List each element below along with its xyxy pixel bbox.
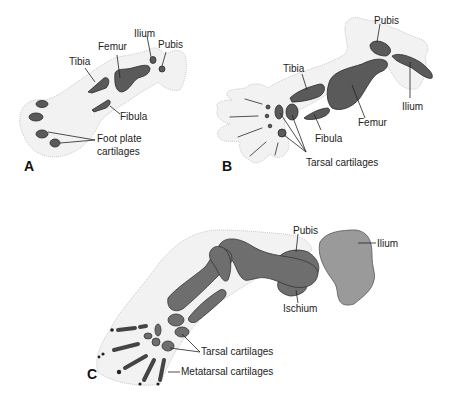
label-tibia: Tibia xyxy=(69,56,91,67)
panel-a: Tibia Femur Ilium Pubis Fibula Foot plat… xyxy=(20,28,187,174)
panel-c-phalanx xyxy=(101,352,104,355)
label-pubis: Pubis xyxy=(293,225,318,236)
diagram-canvas: Tibia Femur Ilium Pubis Fibula Foot plat… xyxy=(0,0,461,399)
panel-b-tarsal xyxy=(268,124,272,128)
panel-c-tarsal xyxy=(168,314,184,326)
panel-letter-b: B xyxy=(222,158,232,174)
panel-c-phalanx xyxy=(156,382,159,385)
label-tibia: Tibia xyxy=(283,63,305,74)
panel-a-foot-cartilage xyxy=(50,139,60,147)
panel-a-pubis xyxy=(159,66,165,72)
panel-a-foot-cartilage xyxy=(36,101,48,108)
panel-c-tarsal xyxy=(175,327,189,337)
panel-a-foot-cartilage xyxy=(36,130,48,138)
label-femur: Femur xyxy=(358,117,388,128)
leader-line xyxy=(182,334,200,352)
panel-c-metatarsal xyxy=(140,326,146,327)
panel-b-tarsal xyxy=(286,104,298,120)
panel-c-tarsal xyxy=(155,324,161,336)
panel-b-fibula xyxy=(304,108,330,120)
panel-c-ilium xyxy=(319,230,374,305)
label-tarsal-cartilages: Tarsal cartilages xyxy=(201,346,273,357)
panel-c-phalanx xyxy=(117,370,121,374)
panel-c: Pubis Ilium Ischium Tarsal cartilages Me… xyxy=(87,225,398,386)
label-fibula: Fibula xyxy=(120,111,148,122)
label-tarsal-cartilages: Tarsal cartilages xyxy=(306,157,378,168)
panel-c-metatarsal xyxy=(118,328,135,330)
panel-c-tarsal xyxy=(144,333,152,339)
panel-b-tarsal xyxy=(266,105,270,109)
label-ilium: Ilium xyxy=(402,101,423,112)
label-fibula: Fibula xyxy=(315,133,343,144)
label-pubis: Pubis xyxy=(158,39,183,50)
panel-c-phalanx xyxy=(98,356,101,359)
label-ilium: Ilium xyxy=(134,28,155,39)
panel-letter-c: C xyxy=(87,366,97,382)
panel-b-tarsal xyxy=(275,105,283,119)
panel-a-foot-cartilage xyxy=(29,113,43,121)
panel-c-phalanx xyxy=(110,328,114,332)
label-foot-plate-cartilages: cartilages xyxy=(97,146,140,157)
panel-b-tarsal xyxy=(265,114,269,118)
label-metatarsal-cartilages: Metatarsal cartilages xyxy=(181,366,273,377)
label-femur: Femur xyxy=(98,41,128,52)
label-ischium: Ischium xyxy=(283,303,317,314)
label-foot-plate: Foot plate xyxy=(97,133,142,144)
panel-c-phalanx xyxy=(138,382,141,385)
label-pubis: Pubis xyxy=(374,15,399,26)
panel-b: Pubis Tibia Ilium Femur Fibula Tarsal ca… xyxy=(217,15,433,174)
label-ilium: Ilium xyxy=(377,238,398,249)
panel-c-tarsal xyxy=(152,338,160,346)
panel-letter-a: A xyxy=(24,158,34,174)
panel-a-ilium xyxy=(150,57,156,64)
panel-c-tarsal xyxy=(162,341,174,351)
